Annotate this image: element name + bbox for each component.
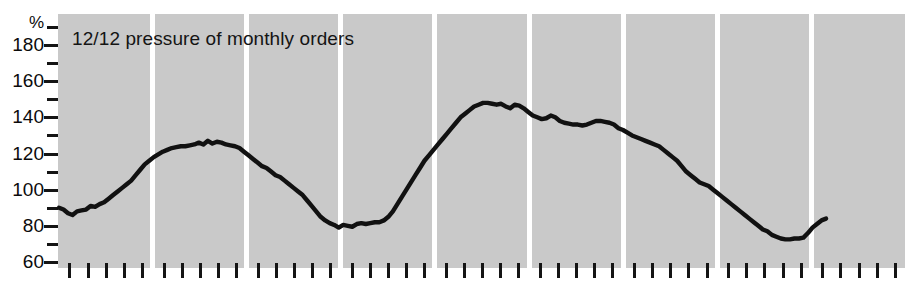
x-tick: [257, 263, 260, 278]
y-tick-major-160: [44, 80, 58, 83]
panel-separator: [150, 14, 155, 268]
x-tick: [611, 263, 614, 278]
y-tick-major-180: [44, 44, 58, 47]
y-tick-minor-150: [47, 98, 58, 101]
x-tick: [858, 263, 861, 278]
x-tick: [199, 263, 202, 278]
x-tick: [669, 263, 672, 278]
y-tick-major-60: [44, 261, 58, 264]
y-axis-label-60: 60: [23, 252, 44, 271]
plot-background: [58, 14, 905, 268]
x-tick: [876, 263, 879, 278]
y-axis-label-140: 140: [12, 107, 44, 126]
x-tick: [517, 263, 520, 278]
chart-root: % 6080100120140160180 12/12 pressure of …: [0, 0, 920, 287]
x-tick: [800, 263, 803, 278]
panel-separator: [432, 14, 437, 268]
y-axis-label-160: 160: [12, 71, 44, 90]
x-tick: [651, 263, 654, 278]
x-tick: [369, 263, 372, 278]
x-tick: [463, 263, 466, 278]
x-tick: [87, 263, 90, 278]
y-axis-unit-label: %: [29, 14, 44, 31]
y-tick-minor-90: [47, 207, 58, 210]
x-tick: [181, 263, 184, 278]
x-tick: [763, 263, 766, 278]
y-tick-major-100: [44, 189, 58, 192]
y-tick-major-140: [44, 116, 58, 119]
x-tick: [745, 263, 748, 278]
panel-separator: [527, 14, 532, 268]
x-tick: [123, 263, 126, 278]
panel-separator: [338, 14, 343, 268]
x-tick: [727, 263, 730, 278]
x-tick: [575, 263, 578, 278]
x-tick: [141, 263, 144, 278]
panel-separator: [621, 14, 626, 268]
x-tick: [163, 263, 166, 278]
y-tick-major-120: [44, 153, 58, 156]
x-tick: [894, 263, 897, 278]
x-tick: [235, 263, 238, 278]
y-tick-minor-70: [47, 243, 58, 246]
y-axis-label-80: 80: [23, 216, 44, 235]
x-tick: [68, 263, 71, 278]
x-tick: [293, 263, 296, 278]
x-tick: [481, 263, 484, 278]
panel-separator: [715, 14, 720, 268]
x-tick: [405, 263, 408, 278]
x-tick: [821, 263, 824, 278]
x-tick: [275, 263, 278, 278]
x-tick: [593, 263, 596, 278]
chart-title: 12/12 pressure of monthly orders: [72, 28, 354, 50]
panel-separator: [244, 14, 249, 268]
x-tick: [217, 263, 220, 278]
y-tick-minor-190: [47, 26, 58, 29]
y-axis-label-180: 180: [12, 35, 44, 54]
x-tick: [387, 263, 390, 278]
x-tick: [311, 263, 314, 278]
panel-separator: [809, 14, 814, 268]
y-tick-minor-130: [47, 134, 58, 137]
x-tick: [423, 263, 426, 278]
x-tick: [782, 263, 785, 278]
y-tick-major-80: [44, 225, 58, 228]
x-tick: [839, 263, 842, 278]
x-tick: [539, 263, 542, 278]
x-tick: [706, 263, 709, 278]
x-tick: [557, 263, 560, 278]
y-tick-minor-170: [47, 62, 58, 65]
y-axis-label-120: 120: [12, 144, 44, 163]
x-tick: [351, 263, 354, 278]
x-tick: [499, 263, 502, 278]
x-tick: [329, 263, 332, 278]
x-tick: [633, 263, 636, 278]
y-axis-label-100: 100: [12, 180, 44, 199]
x-tick: [105, 263, 108, 278]
x-tick: [445, 263, 448, 278]
x-tick: [687, 263, 690, 278]
y-tick-minor-110: [47, 171, 58, 174]
